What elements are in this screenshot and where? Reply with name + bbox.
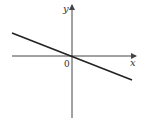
coordinate-plane: y x 0 xyxy=(0,0,143,122)
x-axis-label: x xyxy=(130,57,136,68)
origin-label: 0 xyxy=(64,59,70,69)
y-axis-label: y xyxy=(62,3,69,14)
